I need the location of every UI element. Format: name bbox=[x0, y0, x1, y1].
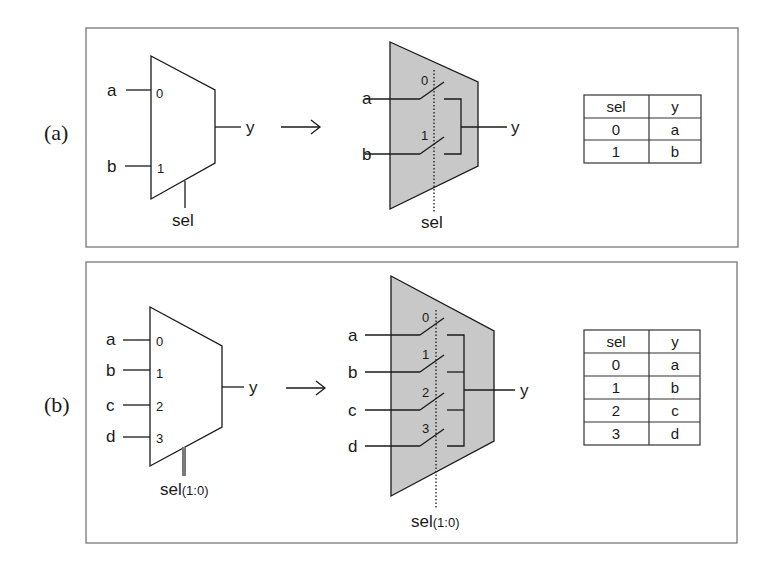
panel-b: (b) a b c d 0 1 2 3 y sel(1:0) bbox=[44, 262, 737, 543]
table-cell: 3 bbox=[612, 425, 620, 442]
table-cell: c bbox=[671, 402, 679, 419]
switch-input-label-d: d bbox=[348, 437, 357, 456]
table-cell: d bbox=[671, 425, 679, 442]
port-label-0: 0 bbox=[156, 86, 163, 101]
input-label-a: a bbox=[107, 81, 117, 100]
table-header-sel: sel bbox=[606, 98, 625, 115]
switch-port-label-1: 1 bbox=[422, 347, 429, 362]
input-label-a: a bbox=[106, 330, 116, 349]
input-label-c: c bbox=[106, 396, 115, 415]
switch-select-label: sel bbox=[421, 213, 443, 232]
table-cell: b bbox=[671, 143, 679, 160]
port-label-3: 3 bbox=[156, 431, 163, 446]
truth-table-b: sel y 0 a 1 b 2 c 3 d bbox=[584, 330, 700, 445]
table-cell: a bbox=[671, 356, 680, 373]
table-cell: 1 bbox=[612, 379, 620, 396]
port-label-2: 2 bbox=[156, 399, 163, 414]
table-cell: 2 bbox=[612, 402, 620, 419]
table-header-y: y bbox=[671, 333, 679, 350]
input-label-d: d bbox=[106, 427, 115, 446]
panel-a-label: (a) bbox=[44, 120, 68, 145]
switch-input-label-a: a bbox=[348, 326, 358, 345]
port-label-0: 0 bbox=[156, 334, 163, 349]
switch-port-label-1: 1 bbox=[421, 128, 428, 143]
switch-output-label-y: y bbox=[511, 118, 520, 137]
table-cell: 1 bbox=[612, 143, 620, 160]
select-label: sel bbox=[172, 211, 194, 230]
truth-table-a: sel y 0 a 1 b bbox=[584, 95, 701, 163]
select-label: sel(1:0) bbox=[160, 480, 208, 499]
table-cell: 0 bbox=[612, 121, 620, 138]
input-label-b: b bbox=[107, 157, 116, 176]
table-header-sel: sel bbox=[606, 333, 625, 350]
switch-select-label: sel(1:0) bbox=[411, 512, 459, 531]
switch-input-label-b: b bbox=[348, 363, 357, 382]
switch-input-label-c: c bbox=[348, 401, 357, 420]
panel-b-label: (b) bbox=[44, 392, 70, 417]
table-cell: 0 bbox=[612, 356, 620, 373]
output-label-y: y bbox=[249, 378, 258, 397]
table-cell: b bbox=[671, 379, 679, 396]
multiplexer-figure: (a) a b 0 1 y sel a 0 bbox=[0, 0, 778, 571]
table-header-y: y bbox=[671, 98, 679, 115]
switch-port-label-0: 0 bbox=[421, 73, 428, 88]
output-label-y: y bbox=[246, 118, 255, 137]
switch-output-label-y: y bbox=[520, 381, 529, 400]
switch-input-label-b: b bbox=[362, 145, 371, 164]
input-label-b: b bbox=[106, 361, 115, 380]
switch-port-label-2: 2 bbox=[422, 385, 429, 400]
table-cell: a bbox=[671, 121, 680, 138]
switch-port-label-0: 0 bbox=[422, 310, 429, 325]
port-label-1: 1 bbox=[156, 366, 163, 381]
switch-port-label-3: 3 bbox=[422, 421, 429, 436]
panel-a: (a) a b 0 1 y sel a 0 bbox=[44, 28, 738, 247]
port-label-1: 1 bbox=[157, 161, 164, 176]
switch-input-label-a: a bbox=[362, 89, 372, 108]
